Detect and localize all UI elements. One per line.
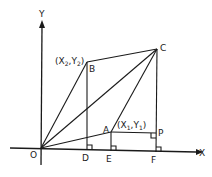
origin-label: O (30, 150, 37, 160)
x-axis (10, 148, 196, 152)
point-B-coordinates: (X2,Y2) (55, 56, 84, 67)
x-axis-label: X (199, 148, 205, 158)
svg-text:(X1,Y1): (X1,Y1) (117, 120, 146, 131)
segment-CF (156, 49, 157, 152)
point-A-label: A (103, 125, 110, 135)
point-B-label: B (89, 64, 95, 74)
y-axis-label: Y (38, 9, 45, 19)
segment-BC (87, 49, 157, 62)
segment-AP (111, 132, 156, 133)
segment-OB (41, 62, 87, 148)
y-axis (41, 26, 42, 165)
point-C-label: C (160, 43, 166, 53)
segment-OA (41, 132, 111, 148)
svg-text:(X2,Y2): (X2,Y2) (55, 56, 84, 67)
point-A-coordinates: (X1,Y1) (117, 120, 146, 131)
point-P-label: P (158, 128, 164, 138)
point-E-label: E (106, 154, 112, 164)
point-F-label: F (151, 155, 156, 165)
right-angle-P-icon (151, 133, 156, 138)
point-D-label: D (82, 153, 89, 163)
y-axis-arrow-icon (39, 20, 45, 28)
geometry-diagram: Y X O C B A D E F P (X2,Y2) (X1,Y1) (0, 0, 212, 177)
